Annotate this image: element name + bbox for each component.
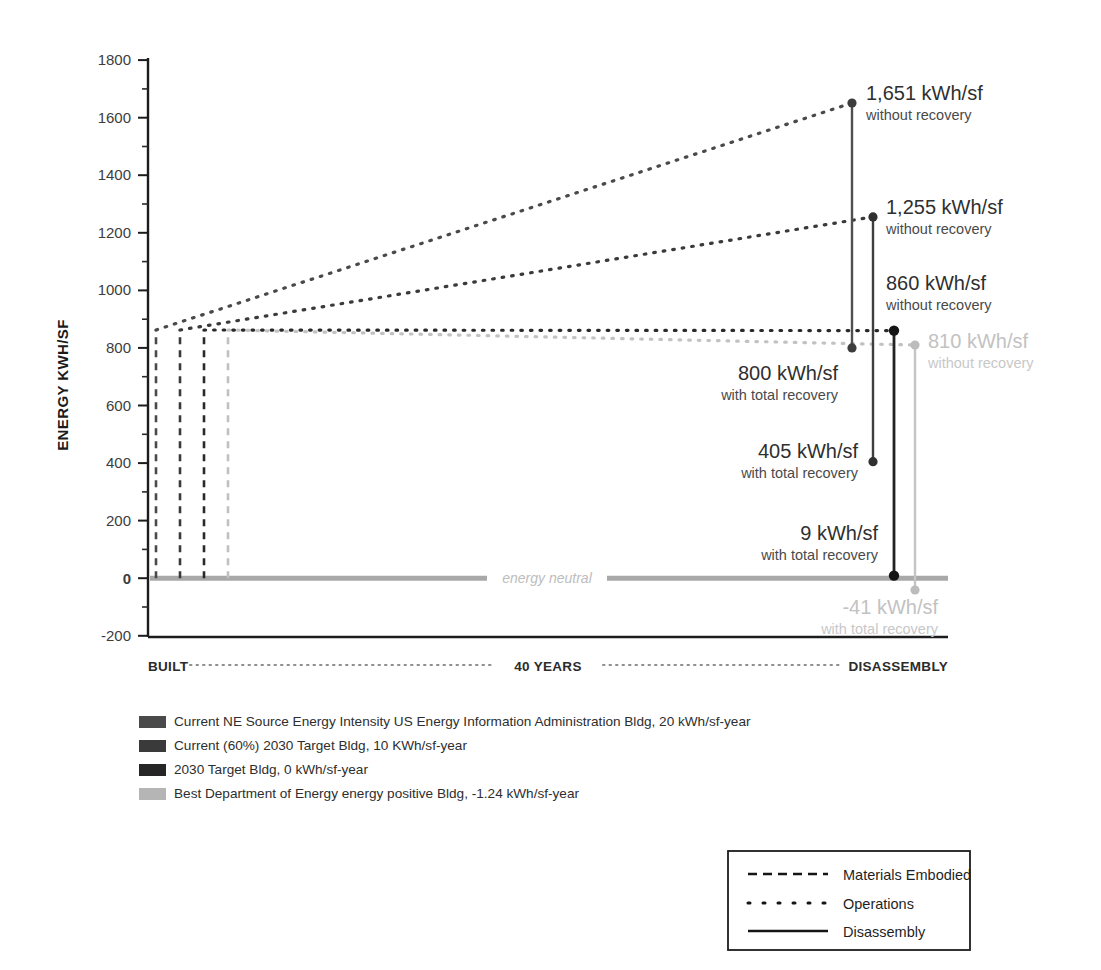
operations-lines [156,103,915,345]
data-label-series-c-bottom: 9 kWh/sf with total recovery [760,522,879,563]
chart-canvas: 1800 1600 1400 1200 1000 800 600 400 200… [0,0,1101,970]
legend-label-3: Best Department of Energy energy positiv… [174,786,579,801]
legend-swatch-1 [139,740,166,752]
y-axis-title: ENERGY KWH/SF [54,319,71,451]
legend-swatch-0 [139,716,166,728]
y-tick-1200: 1200 [98,224,131,241]
energy-neutral-label: energy neutral [502,570,592,586]
operations-line-series-a [156,103,852,330]
data-label-series-a-top: 1,651 kWh/sf without recovery [865,82,983,123]
operations-line-series-d [228,330,915,345]
label-c-top-value: 860 kWh/sf [886,272,986,294]
label-a-bottom-note: with total recovery [720,387,839,403]
label-c-bottom-note: with total recovery [760,547,879,563]
materials-embodied-lines [156,330,228,578]
line-style-key: Materials Embodied Operations Disassembl… [728,851,971,950]
y-tick-1800: 1800 [98,51,131,68]
operations-line-series-c [204,330,894,331]
label-b-top-note: without recovery [885,221,992,237]
y-tick-600: 600 [106,397,131,414]
legend-label-2: 2030 Target Bldg, 0 kWh/sf-year [174,762,368,777]
x-category-axis: BUILT 40 YEARS DISASSEMBLY [148,659,948,674]
operations-line-series-b [180,217,873,330]
marker-series-b-bottom [868,457,877,466]
marker-series-d-bottom [910,585,919,594]
legend-label-1: Current (60%) 2030 Target Bldg, 10 KWh/s… [174,738,467,753]
marker-series-c-bottom [889,570,899,580]
x-label-40-years: 40 YEARS [514,659,581,674]
label-b-bottom-note: with total recovery [740,465,859,481]
y-tick-minus200: -200 [101,627,131,644]
marker-series-b-top [868,212,877,221]
marker-series-d-top [910,340,919,349]
legend-label-0: Current NE Source Energy Intensity US En… [174,714,751,729]
data-label-series-b-bottom: 405 kWh/sf with total recovery [740,440,859,481]
label-d-bottom-note: with total recovery [820,621,939,637]
label-d-top-note: without recovery [927,355,1034,371]
label-b-top-value: 1,255 kWh/sf [886,196,1003,218]
energy-lifecycle-chart: 1800 1600 1400 1200 1000 800 600 400 200… [0,0,1101,970]
x-label-disassembly: DISASSEMBLY [848,659,948,674]
disassembly-lines [847,98,919,594]
y-tick-400: 400 [106,454,131,471]
y-tick-0: 0 [123,570,131,587]
data-label-series-a-bottom: 800 kWh/sf with total recovery [720,362,839,403]
label-a-bottom-value: 800 kWh/sf [738,362,838,384]
label-d-top-value: 810 kWh/sf [928,330,1028,352]
marker-series-c-top [889,325,899,335]
key-label-disassembly: Disassembly [843,924,926,940]
legend-swatch-3 [139,788,166,800]
y-tick-1600: 1600 [98,109,131,126]
label-a-top-note: without recovery [865,107,972,123]
label-a-top-value: 1,651 kWh/sf [866,82,983,104]
y-tick-1400: 1400 [98,166,131,183]
label-b-bottom-value: 405 kWh/sf [758,440,858,462]
label-d-bottom-value: -41 kWh/sf [842,596,938,618]
y-axis-tick-labels: 1800 1600 1400 1200 1000 800 600 400 200… [98,51,131,644]
data-label-series-c-top: 860 kWh/sf without recovery [885,272,992,313]
marker-series-a-top [847,98,856,107]
key-label-materials-embodied: Materials Embodied [843,867,971,883]
label-c-top-note: without recovery [885,297,992,313]
legend-swatch-2 [139,764,166,776]
y-tick-200: 200 [106,512,131,529]
y-tick-800: 800 [106,339,131,356]
series-legend: Current NE Source Energy Intensity US En… [139,714,751,801]
data-label-series-d-top: 810 kWh/sf without recovery [927,330,1034,371]
label-c-bottom-value: 9 kWh/sf [800,522,878,544]
data-label-series-b-top: 1,255 kWh/sf without recovery [885,196,1003,237]
key-label-operations: Operations [843,896,914,912]
y-tick-1000: 1000 [98,281,131,298]
x-label-built: BUILT [148,659,189,674]
data-label-series-d-bottom: -41 kWh/sf with total recovery [820,596,939,637]
marker-series-a-bottom [847,343,856,352]
